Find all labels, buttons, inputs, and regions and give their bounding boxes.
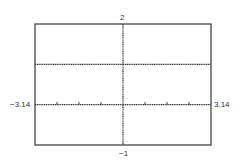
x-min-label: −3.14 <box>10 100 30 109</box>
x-max-label: 3.14 <box>214 100 230 109</box>
y-max-label: 2 <box>120 13 124 22</box>
plot-area <box>0 0 244 166</box>
y-min-label: −1 <box>119 149 128 158</box>
